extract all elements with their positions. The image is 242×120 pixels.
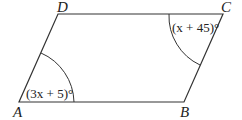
vertex-label-b: B [180,104,189,120]
vertex-label-d: D [56,0,68,15]
vertex-label-a: A [12,104,23,120]
angle-label-a: (3x + 5)° [26,86,73,101]
vertex-label-c: C [221,0,232,15]
parallelogram-diagram: A B C D (3x + 5)° (x + 45)° [0,0,242,120]
diagram-svg: A B C D (3x + 5)° (x + 45)° [0,0,242,120]
angle-label-c: (x + 45)° [172,20,219,35]
